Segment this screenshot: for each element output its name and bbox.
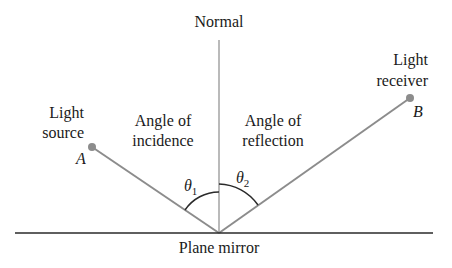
reflection-diagram: Normal Light source A Angle of incidence…	[0, 0, 452, 268]
point-b-label: B	[413, 102, 423, 121]
theta1-subscript: 1	[192, 185, 198, 197]
angle-incidence-label-line2: incidence	[118, 131, 208, 150]
theta2-subscript: 2	[244, 177, 250, 189]
point-a-dot	[88, 143, 96, 151]
point-a-label: A	[76, 149, 86, 168]
light-receiver-label-line1: Light	[350, 50, 428, 69]
angle-reflection-label-line2: reflection	[228, 131, 318, 150]
theta1-label: θ1	[184, 176, 197, 201]
light-receiver-label-line2: receiver	[350, 71, 428, 90]
angle-incidence-label-line1: Angle of	[118, 111, 208, 130]
theta1-symbol: θ	[184, 177, 192, 194]
theta2-symbol: θ	[236, 169, 244, 186]
plane-mirror-label: Plane mirror	[164, 238, 274, 257]
angle-reflection-label-line1: Angle of	[228, 111, 318, 130]
normal-label: Normal	[184, 12, 254, 31]
incident-ray	[92, 147, 219, 233]
theta2-label: θ2	[236, 168, 249, 193]
light-source-label-line1: Light	[20, 103, 84, 122]
light-source-label-line2: source	[20, 123, 84, 142]
point-b-dot	[406, 94, 414, 102]
